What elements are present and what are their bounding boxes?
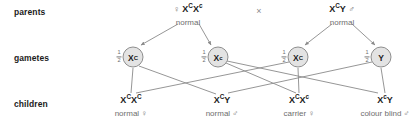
child-3-allele-2-sup: c <box>306 93 310 100</box>
child-4-allele-2: Y <box>387 95 393 105</box>
parent-father-phenotype: normal <box>330 18 354 27</box>
male-symbol-child-4: ♂ <box>404 109 410 118</box>
row-label-parents: parents <box>14 7 45 17</box>
child-1-genotype: XCXC <box>120 95 141 105</box>
child-1-phenotype: normal ♀ <box>115 109 148 118</box>
fraction-numerator: 1 <box>282 50 285 56</box>
child-3-phenotype-text: carrier <box>284 109 307 118</box>
parent-mother-genotype: ♀ XCXc <box>173 4 202 14</box>
line-g3-child1 <box>136 62 289 93</box>
arrow-father-to-gamete-4 <box>352 24 375 45</box>
fraction-gamete-4: 1 2 <box>365 50 370 63</box>
arrow-father-to-gamete-3 <box>305 24 332 45</box>
cross-symbol: × <box>256 6 261 16</box>
child-4-phenotype-text: colour blind <box>360 109 401 118</box>
gamete-4-allele: Y <box>378 52 384 62</box>
child-2-phenotype-text: normal <box>206 109 230 118</box>
line-g1-child1 <box>131 68 133 93</box>
row-label-gametes: gametes <box>14 53 49 63</box>
gamete-3: XC <box>288 47 309 68</box>
mother-allele-2-sup: c <box>199 2 203 9</box>
fraction-numerator: 1 <box>117 50 120 56</box>
fraction-numerator: 1 <box>365 50 368 56</box>
arrow-mother-to-gamete-2 <box>199 24 211 45</box>
fraction-denominator: 2 <box>282 58 285 64</box>
female-symbol-child-3: ♀ <box>308 109 314 118</box>
fraction-gamete-3: 1 2 <box>282 50 287 63</box>
female-symbol-mother: ♀ <box>173 4 179 14</box>
child-2-genotype: XCY <box>214 95 231 105</box>
child-4-genotype: XcY <box>377 95 393 105</box>
colour-blindness-inheritance-diagram: parents gametes children ♀ XCXc normal ×… <box>0 0 420 126</box>
child-3-genotype: XCXc <box>289 95 309 105</box>
fraction-gamete-1: 1 2 <box>117 50 122 63</box>
child-4-phenotype: colour blind ♂ <box>360 109 409 118</box>
child-2-phenotype: normal ♂ <box>206 109 239 118</box>
fraction-numerator: 1 <box>202 50 205 56</box>
parent-father-genotype: XCY ♂ <box>329 4 355 14</box>
male-symbol-child-2: ♂ <box>232 109 238 118</box>
child-2-allele-2: Y <box>224 95 230 105</box>
line-g4-child4 <box>381 68 385 93</box>
gamete-2-allele: X <box>213 52 219 62</box>
arrow-mother-to-gamete-1 <box>141 24 178 45</box>
gamete-4: Y <box>371 47 392 68</box>
line-g2-child3 <box>226 63 296 93</box>
gamete-2: Xc <box>208 47 229 68</box>
child-1-phenotype-text: normal <box>115 109 139 118</box>
gamete-1: XC <box>123 47 144 68</box>
female-symbol-child-1: ♀ <box>141 109 147 118</box>
parent-mother-phenotype: normal <box>176 18 200 27</box>
fraction-denominator: 2 <box>117 58 120 64</box>
child-1-allele-2-sup: C <box>137 93 142 100</box>
fraction-gamete-2: 1 2 <box>202 50 207 63</box>
line-g3-child3 <box>298 68 299 93</box>
fraction-denominator: 2 <box>202 58 205 64</box>
child-3-phenotype: carrier ♀ <box>284 109 315 118</box>
fraction-denominator: 2 <box>365 58 368 64</box>
line-g1-child2 <box>139 66 216 94</box>
male-symbol-father: ♂ <box>348 4 354 14</box>
father-allele-2: Y <box>340 4 346 14</box>
row-label-children: children <box>14 99 48 109</box>
